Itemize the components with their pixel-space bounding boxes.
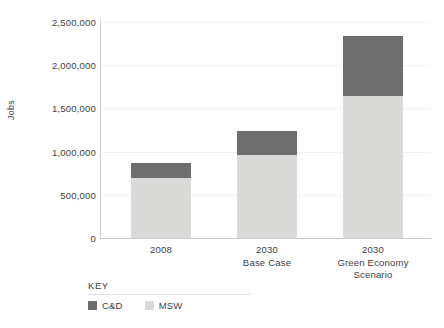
bar-segment-msw bbox=[237, 155, 297, 238]
bar-segment-cd bbox=[131, 163, 191, 178]
legend-label-cd: C&D bbox=[102, 300, 123, 311]
legend-swatch-msw-icon bbox=[145, 301, 154, 310]
plot-area bbox=[100, 22, 431, 238]
y-tick-label: 500,000 bbox=[4, 189, 96, 200]
x-label-line: Scenario bbox=[313, 269, 433, 282]
stacked-bar-chart: Jobs 2,500,000 2,000,000 1,500,000 1,000… bbox=[0, 0, 444, 328]
bar-segment-cd bbox=[237, 131, 297, 155]
x-label-line: 2030 bbox=[207, 244, 327, 257]
y-tick-label: 1,000,000 bbox=[4, 146, 96, 157]
x-label-line: Green Economy bbox=[313, 257, 433, 270]
bar-2008[interactable] bbox=[131, 163, 191, 238]
bar-2030-green-economy-scenario[interactable] bbox=[343, 36, 403, 238]
x-label-line: 2030 bbox=[313, 244, 433, 257]
x-axis-label-2030-base-case: 2030 Base Case bbox=[207, 244, 327, 269]
y-tick-label: 1,500,000 bbox=[4, 103, 96, 114]
y-tick-label: 0 bbox=[4, 233, 96, 244]
x-axis-label-2008: 2008 bbox=[101, 244, 221, 257]
x-axis-line bbox=[100, 238, 431, 239]
legend: KEY C&D MSW bbox=[88, 280, 268, 311]
bar-segment-msw bbox=[131, 178, 191, 238]
x-label-line: Base Case bbox=[207, 257, 327, 270]
legend-swatch-cd-icon bbox=[88, 301, 97, 310]
gridline bbox=[100, 22, 431, 23]
legend-item-msw[interactable]: MSW bbox=[145, 300, 183, 311]
bar-segment-cd bbox=[343, 36, 403, 96]
legend-items: C&D MSW bbox=[88, 300, 268, 311]
bar-segment-msw bbox=[343, 96, 403, 238]
legend-item-cd[interactable]: C&D bbox=[88, 300, 123, 311]
y-axis-tick-labels: 2,500,000 2,000,000 1,500,000 1,000,000 … bbox=[0, 0, 96, 328]
y-tick-label: 2,500,000 bbox=[4, 17, 96, 28]
legend-label-msw: MSW bbox=[159, 300, 183, 311]
y-tick-label: 2,000,000 bbox=[4, 60, 96, 71]
legend-title: KEY bbox=[88, 280, 268, 291]
x-axis-label-2030-green-economy-scenario: 2030 Green Economy Scenario bbox=[313, 244, 433, 282]
legend-divider bbox=[88, 294, 251, 295]
x-label-line: 2008 bbox=[101, 244, 221, 257]
bar-2030-base-case[interactable] bbox=[237, 131, 297, 238]
